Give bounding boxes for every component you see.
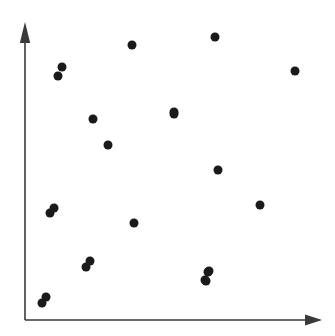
data-point: [128, 41, 137, 50]
data-point: [89, 115, 98, 124]
data-point: [211, 33, 220, 42]
plot-background: [0, 0, 335, 336]
data-point: [130, 219, 139, 228]
data-point: [214, 166, 223, 175]
data-point: [104, 141, 113, 150]
data-point: [256, 201, 265, 210]
scatter-plot-figure: [0, 0, 335, 336]
data-point: [54, 72, 63, 81]
data-point: [46, 209, 55, 218]
data-point: [38, 299, 47, 308]
data-point: [205, 267, 214, 276]
data-point: [291, 67, 300, 76]
data-point: [82, 263, 91, 272]
data-point: [202, 277, 211, 286]
data-point: [170, 110, 179, 119]
data-point: [58, 63, 67, 72]
plot-canvas: [0, 0, 335, 336]
